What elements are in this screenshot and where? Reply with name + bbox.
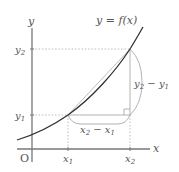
y2-label: y2 xyxy=(14,44,26,57)
right-angle-marker xyxy=(124,109,130,115)
y1-label: y1 xyxy=(14,110,25,123)
origin-label: O xyxy=(20,152,29,165)
x-axis-label: x xyxy=(153,142,160,155)
x1-label: x1 xyxy=(63,153,73,166)
axes: y x O xyxy=(17,15,160,165)
brace-dx xyxy=(68,115,130,124)
function-secant-diagram: y x O y = f(x) y2 y1 x1 x2 xyxy=(0,0,179,172)
dx-label: x2 − x1 xyxy=(80,124,115,137)
dy-label: y2 − y1 xyxy=(133,78,169,91)
secant-line xyxy=(68,49,130,115)
function-label: y = f(x) xyxy=(95,14,137,27)
x2-label: x2 xyxy=(125,153,136,166)
y-axis-label: y xyxy=(27,15,35,28)
